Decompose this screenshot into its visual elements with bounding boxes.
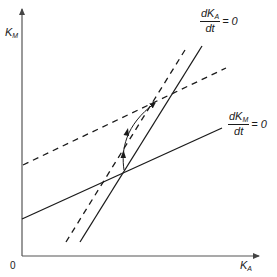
- km-nullcline-shifted-dashed: [23, 68, 226, 165]
- ka-nullcline-line: [80, 46, 202, 242]
- trajectory-arrow-icon: [121, 150, 127, 158]
- trajectory-arrow-icon: [124, 128, 130, 136]
- y-axis-label: KM: [5, 27, 18, 39]
- ka-nullcline-shifted-dashed: [66, 50, 185, 242]
- phase-diagram: [0, 0, 277, 277]
- ka-nullcline-label: dKA dt = 0: [200, 8, 238, 34]
- origin-label: 0: [10, 261, 16, 271]
- x-axis-label: KA: [240, 260, 252, 272]
- km-nullcline-label: dKM dt = 0: [228, 111, 267, 137]
